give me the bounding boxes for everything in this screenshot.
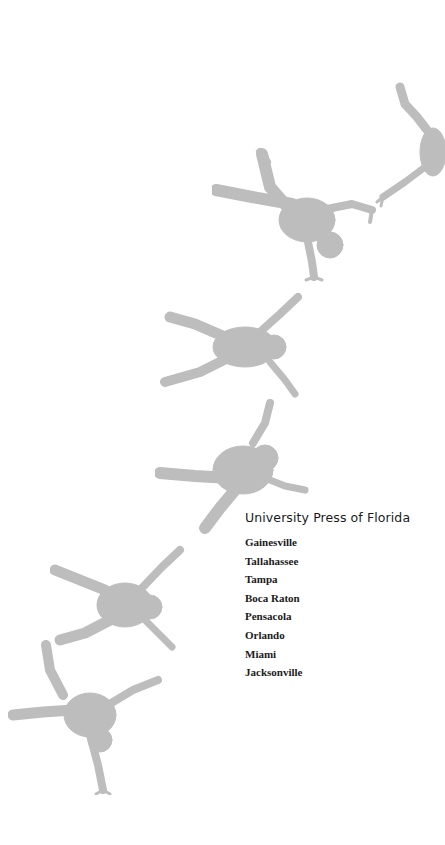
cartwheel-figure-1	[375, 82, 445, 212]
city-tampa: Tampa	[245, 570, 410, 589]
city-jacksonville: Jacksonville	[245, 663, 410, 682]
figure-silhouette-icon	[160, 292, 310, 402]
city-boca-raton: Boca Raton	[245, 589, 410, 608]
city-gainesville: Gainesville	[245, 533, 410, 552]
city-miami: Miami	[245, 645, 410, 664]
city-orlando: Orlando	[245, 626, 410, 645]
publisher-imprint: University Press of Florida Gainesville …	[245, 510, 410, 682]
cartwheel-figure-5	[50, 545, 190, 655]
city-tallahassee: Tallahassee	[245, 552, 410, 571]
figure-silhouette-icon	[212, 132, 377, 282]
city-pensacola: Pensacola	[245, 607, 410, 626]
figure-silhouette-icon	[50, 545, 190, 655]
cartwheel-figure-6	[8, 640, 168, 795]
publisher-name: University Press of Florida	[245, 510, 410, 525]
cartwheel-figure-2	[212, 132, 377, 282]
figure-silhouette-icon	[8, 640, 168, 795]
cartwheel-figure-3	[160, 292, 310, 402]
figure-silhouette-icon	[375, 82, 445, 212]
